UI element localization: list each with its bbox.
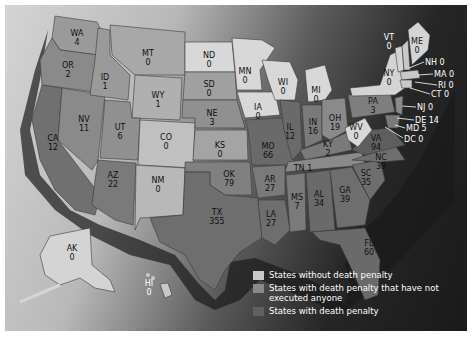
svg-text:OR: OR [62, 61, 74, 70]
svg-text:IL: IL [287, 123, 294, 132]
legend-swatch-medium [253, 284, 264, 293]
svg-text:66: 66 [263, 151, 273, 160]
svg-text:11: 11 [79, 124, 89, 133]
state-ct[interactable] [400, 80, 412, 88]
svg-text:3: 3 [370, 106, 375, 115]
svg-text:6: 6 [117, 132, 122, 141]
callout-nj: NJ 0 [417, 103, 433, 112]
label-tn: TN 1 [293, 164, 313, 173]
svg-text:0: 0 [313, 95, 318, 104]
svg-text:NE: NE [206, 109, 217, 118]
svg-text:AZ: AZ [108, 171, 119, 180]
svg-text:IN: IN [309, 118, 317, 127]
legend-swatch-dark [253, 307, 264, 316]
svg-text:0: 0 [146, 288, 151, 297]
svg-text:PA: PA [368, 97, 378, 106]
svg-text:OH: OH [329, 114, 341, 123]
callout-ct: CT 0 [431, 90, 449, 99]
svg-text:VA: VA [371, 134, 382, 143]
callout-dc: DC 0 [404, 135, 423, 144]
svg-text:7: 7 [294, 202, 299, 211]
state-hi[interactable] [160, 283, 172, 298]
svg-text:UT: UT [115, 123, 126, 132]
svg-text:19: 19 [330, 123, 340, 132]
callout-ri: RI 0 [438, 81, 454, 90]
svg-text:AL: AL [314, 190, 324, 199]
svg-text:16: 16 [308, 127, 318, 136]
svg-text:2: 2 [65, 70, 70, 79]
svg-text:34: 34 [314, 199, 324, 208]
svg-text:MS: MS [291, 193, 303, 202]
svg-text:HI: HI [145, 279, 153, 288]
svg-text:VT: VT [384, 33, 394, 42]
svg-text:0: 0 [145, 58, 150, 67]
svg-text:0: 0 [414, 46, 419, 55]
svg-text:0: 0 [69, 253, 74, 262]
callout-md: MD 5 [406, 124, 427, 133]
svg-text:0: 0 [163, 142, 168, 151]
svg-text:AK: AK [67, 244, 78, 253]
svg-text:0: 0 [255, 112, 260, 121]
svg-text:NY: NY [384, 69, 395, 78]
legend-item-death-penalty: States with death penalty [253, 306, 463, 316]
svg-text:CO: CO [160, 133, 172, 142]
svg-text:ID: ID [101, 73, 110, 82]
svg-text:WY: WY [152, 91, 165, 100]
svg-text:OK: OK [223, 170, 235, 179]
svg-text:12: 12 [285, 132, 295, 141]
svg-text:GA: GA [339, 186, 351, 195]
svg-text:0: 0 [386, 78, 391, 87]
svg-text:60: 60 [364, 248, 374, 257]
state-ma[interactable] [400, 70, 420, 80]
callout-ma: MA 0 [434, 70, 454, 79]
svg-text:0: 0 [280, 87, 285, 96]
svg-text:MT: MT [142, 49, 154, 58]
svg-text:NM: NM [152, 176, 165, 185]
hi-island [146, 273, 150, 277]
svg-text:SC: SC [361, 169, 372, 178]
svg-text:IA: IA [254, 103, 262, 112]
svg-text:1: 1 [102, 82, 107, 91]
svg-text:WV: WV [349, 123, 363, 132]
svg-text:79: 79 [224, 179, 234, 188]
legend-swatch-light [253, 271, 264, 280]
svg-text:4: 4 [74, 38, 79, 47]
svg-text:2: 2 [325, 149, 330, 158]
svg-text:NC: NC [375, 153, 387, 162]
svg-text:39: 39 [340, 195, 350, 204]
svg-text:LA: LA [266, 210, 277, 219]
svg-text:WI: WI [278, 78, 288, 87]
svg-text:0: 0 [386, 42, 391, 51]
svg-text:27: 27 [265, 184, 275, 193]
svg-text:TX: TX [211, 208, 223, 217]
map-frame: WA4 OR2 CA12 NV11 ID1 MT0 WY1 UT6 CO0 AZ… [5, 5, 467, 331]
legend-item-no-executions: States with death penalty that have not … [253, 283, 463, 303]
svg-text:39: 39 [376, 162, 386, 171]
svg-text:1: 1 [155, 100, 160, 109]
svg-text:SD: SD [203, 80, 214, 89]
svg-text:ME: ME [411, 37, 423, 46]
svg-text:22: 22 [108, 180, 118, 189]
svg-text:27: 27 [266, 219, 276, 228]
svg-text:CA: CA [47, 134, 59, 143]
svg-text:0: 0 [242, 76, 247, 85]
svg-text:NV: NV [78, 115, 90, 124]
svg-text:MN: MN [239, 67, 252, 76]
svg-text:0: 0 [217, 150, 222, 159]
svg-text:35: 35 [361, 178, 371, 187]
aleutian-islands [20, 285, 60, 302]
state-nj[interactable] [395, 96, 403, 115]
svg-text:0: 0 [155, 185, 160, 194]
svg-text:0: 0 [206, 60, 211, 69]
svg-text:FL: FL [364, 239, 374, 248]
svg-text:355: 355 [209, 217, 224, 226]
state-az[interactable] [92, 160, 136, 225]
label-wa: WA [71, 29, 84, 38]
svg-text:KS: KS [215, 141, 225, 150]
svg-text:ND: ND [203, 51, 215, 60]
svg-text:12: 12 [48, 143, 58, 152]
callout-nh: NH 0 [425, 58, 445, 67]
svg-text:MI: MI [311, 86, 320, 95]
svg-text:KY: KY [323, 140, 333, 149]
svg-text:MO: MO [261, 142, 274, 151]
